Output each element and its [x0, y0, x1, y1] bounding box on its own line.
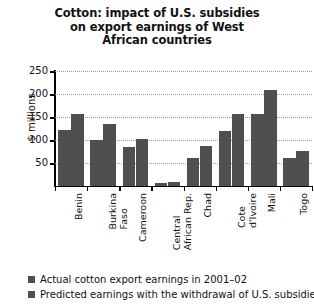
bar: [187, 158, 200, 186]
bar: [58, 130, 71, 186]
x-axis-category-label: Cameroon: [138, 193, 149, 242]
x-axis-tick: [87, 186, 88, 191]
category-label-line: Togo: [298, 193, 309, 215]
y-axis-tick-label: 150: [29, 112, 48, 122]
x-axis-tick: [55, 186, 56, 191]
legend-label: Predicted earnings with the withdrawal o…: [40, 288, 314, 301]
y-axis-tick-label: 50: [35, 158, 48, 168]
bar-group: [55, 71, 87, 186]
bar: [136, 139, 149, 186]
category-label-line: Central: [171, 216, 182, 251]
bar: [283, 158, 296, 186]
legend-swatch: [28, 291, 35, 298]
x-axis-category-label: Coted'Ivoire: [237, 193, 258, 228]
bar-group: [280, 71, 312, 186]
legend-label: Actual cotton export earnings in 2001–02: [40, 273, 247, 286]
x-axis-tick: [216, 186, 217, 191]
category-label-line: Burkina: [107, 193, 118, 229]
category-label-line: Faso: [119, 193, 130, 229]
bar: [264, 90, 277, 186]
bar-group: [87, 71, 119, 186]
bar-group: [119, 71, 151, 186]
x-axis-tick: [119, 186, 120, 191]
bar: [219, 131, 232, 186]
x-axis-category-label: Togo: [299, 193, 310, 215]
x-axis-category-label: BurkinaFaso: [108, 193, 129, 229]
chart-container: Cotton: impact of U.S. subsidies on expo…: [0, 0, 314, 304]
legend-item: Predicted earnings with the withdrawal o…: [28, 288, 314, 301]
bar: [168, 182, 181, 186]
bar: [103, 124, 116, 186]
bar: [251, 114, 264, 186]
x-axis-tick: [184, 186, 185, 191]
chart-legend: Actual cotton export earnings in 2001–02…: [28, 273, 314, 303]
legend-swatch: [28, 276, 35, 283]
y-axis-tick-label: 200: [29, 89, 48, 99]
x-axis-tick: [151, 186, 152, 191]
bar: [296, 151, 309, 186]
x-axis-category-label: Chad: [203, 193, 214, 218]
bar-group: [248, 71, 280, 186]
bar-group: [216, 71, 248, 186]
category-label-line: African Rep.: [183, 193, 194, 250]
x-axis-category-label: CentralAfrican Rep.: [172, 193, 193, 250]
bar: [71, 114, 84, 186]
bar: [155, 183, 168, 186]
category-label-line: Cote: [236, 206, 247, 228]
x-axis-category-label: Mali: [267, 193, 278, 212]
y-axis-tick-label: 250: [29, 66, 48, 76]
y-axis-tick-label: 100: [29, 135, 48, 145]
x-axis-tick: [248, 186, 249, 191]
x-axis-tick: [312, 186, 313, 191]
bar: [123, 147, 136, 186]
legend-item: Actual cotton export earnings in 2001–02: [28, 273, 314, 286]
chart-title-line-3: African countries: [0, 34, 314, 48]
category-label-line: Mali: [266, 193, 277, 212]
bar-group: [184, 71, 216, 186]
bar: [90, 140, 103, 186]
chart-title-line-2: on export earnings of West: [0, 21, 314, 35]
x-axis-category-label: Benin: [74, 193, 85, 220]
category-label-line: d'Ivoire: [247, 193, 258, 228]
chart-title-line-1: Cotton: impact of U.S. subsidies: [0, 7, 314, 21]
bar-group: [151, 71, 183, 186]
bar: [232, 114, 245, 186]
plot-area: 50100150200250: [55, 71, 312, 186]
category-label-line: Benin: [73, 193, 84, 220]
category-label-line: Cameroon: [137, 193, 148, 242]
x-axis-tick: [280, 186, 281, 191]
category-label-line: Chad: [202, 193, 213, 218]
chart-title: Cotton: impact of U.S. subsidies on expo…: [0, 7, 314, 48]
bar: [200, 146, 213, 186]
